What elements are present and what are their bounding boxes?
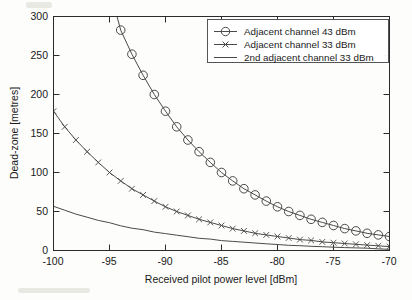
chart-figure: 0 50 100 150 200 250 300 -100 -95 -90 -8… [0,0,412,300]
y-tick-label: 250 [30,49,48,61]
y-tick-label: 100 [30,166,48,178]
series-2-markers [51,108,393,249]
legend-label-1: Adjacent channel 43 dBm [244,26,356,37]
y-tick-label: 200 [30,88,48,100]
legend-label-3: 2nd adjacent channel 33 dBm [244,52,374,63]
series-line-2 [54,111,390,246]
x-tick-label: -100 [42,255,63,267]
y-axis-title: Dead-zone [metres] [8,87,20,179]
series-adjacent-channel-33dbm [51,108,393,249]
x-tick-label: -90 [157,255,172,267]
y-tick-label: 150 [30,127,48,139]
scan-artifact [18,288,90,293]
scan-artifact [26,2,52,8]
dead-zone-line-chart: 0 50 100 150 200 250 300 -100 -95 -90 -8… [0,0,412,300]
x-tick-label: -80 [269,255,284,267]
y-tick-label: 50 [36,205,48,217]
y-tick-labels: 0 50 100 150 200 250 300 [30,10,48,256]
x-tick-label: -85 [213,255,228,267]
x-tick-labels: -100 -95 -90 -85 -80 -75 -70 [42,255,396,267]
y-tick-label: 300 [30,10,48,22]
x-tick-label: -70 [381,255,396,267]
legend-label-2: Adjacent channel 33 dBm [244,39,356,50]
x-tick-label: -95 [101,255,116,267]
x-axis-title: Received pilot power level [dBm] [145,273,297,285]
x-tick-label: -75 [325,255,340,267]
chart-legend: Adjacent channel 43 dBm Adjacent channel… [208,20,389,64]
